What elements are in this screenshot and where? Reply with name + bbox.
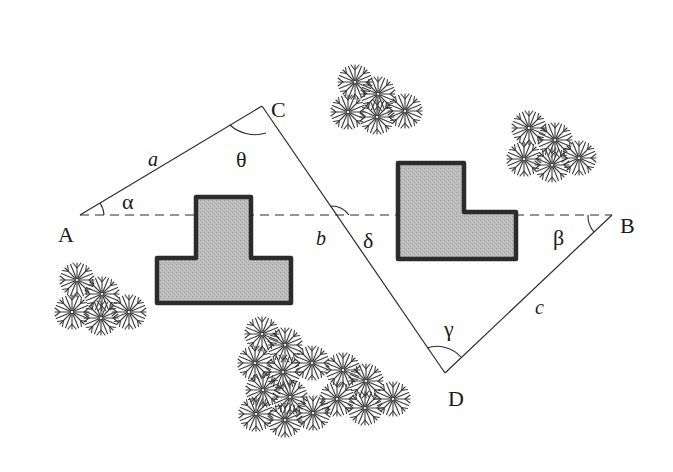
tree-cluster-left <box>55 263 146 335</box>
angle-arc-gamma <box>427 346 461 357</box>
side-label-a: a <box>148 148 158 170</box>
l-shaped-building <box>398 163 516 259</box>
angle-label-beta: β <box>553 225 564 250</box>
angle-arc-beta <box>588 215 594 232</box>
tree-cluster-top-right <box>507 111 596 182</box>
diagram-canvas: A B C D a b c α θ δ β γ <box>0 0 673 472</box>
point-label-c: C <box>271 97 286 122</box>
point-label-d: D <box>448 386 464 411</box>
t-shaped-building <box>157 197 291 303</box>
point-label-b: B <box>620 213 635 238</box>
angle-label-alpha: α <box>122 189 134 214</box>
angle-label-theta: θ <box>236 147 247 172</box>
side-label-c: c <box>535 296 544 318</box>
angle-arc-alpha <box>100 203 104 215</box>
angle-label-gamma: γ <box>443 316 454 341</box>
angle-arc-theta <box>230 125 266 135</box>
point-label-a: A <box>58 222 74 247</box>
side-label-b: b <box>316 227 326 249</box>
tree-cluster-bottom <box>238 317 410 437</box>
angle-label-delta: δ <box>363 228 373 253</box>
tree-cluster-top-center <box>331 65 422 134</box>
